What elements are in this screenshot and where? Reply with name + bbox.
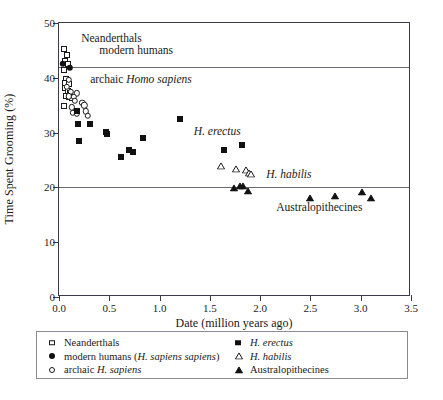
x-tick-mark [310,295,311,301]
y-tick-label: 30 [44,127,55,139]
legend-label-tail: ) [216,351,220,362]
series-australopithecines [59,23,409,295]
annotation-modern-humans: modern humans [99,44,173,56]
legend-item-neanderthals[interactable]: Neanderthals [47,336,219,350]
x-tick-label: 1.0 [153,302,167,314]
legend-marker-filled-triangle [235,366,243,373]
legend-label-italic: H. sapiens sapiens [138,351,216,362]
annotation-text-italic: Homo sapiens [126,73,192,85]
x-tick-mark [160,295,161,301]
legend-marker-open-square [49,340,55,346]
plot-area: 01020304050 0.00.51.01.52.02.53.03.5 Nea… [58,22,410,296]
annotation-australopithecines: Australopithecines [276,201,362,213]
x-tick-label: 3.5 [404,302,418,314]
x-tick-label: 1.5 [203,302,217,314]
x-tick-mark [260,295,261,301]
x-tick-label: 0.5 [102,302,116,314]
chart-legend: Neanderthalsmodern humans (H. sapiens sa… [36,331,408,379]
legend-item-archaic[interactable]: archaic H. sapiens [47,363,219,377]
x-tick-mark [109,295,110,301]
figure-caption [6,386,437,398]
legend-label: Neanderthals [64,337,119,348]
legend-column-right: H. erectusH. habilisAustralopithecines [233,336,329,377]
legend-item-modern-humans[interactable]: modern humans (H. sapiens sapiens) [47,350,219,364]
legend-marker-open-triangle [235,353,243,360]
annotation-neanderthals: Neanderthals [81,32,142,44]
annotation-h-erectus: H. erectus [194,125,241,137]
y-tick-label: 50 [44,17,55,29]
annotation-text-italic: H. habilis [266,168,311,180]
figure-container: Time Spent Grooming (%) 01020304050 0.00… [0,0,443,400]
legend-column-left: Neanderthalsmodern humans (H. sapiens sa… [47,336,219,377]
x-tick-mark [361,295,362,301]
data-point [367,195,375,202]
legend-marker-open-circle [49,367,55,373]
x-tick-mark [210,295,211,301]
legend-marker-filled-circle [49,353,55,359]
legend-label-italic: H. habilis [250,351,291,362]
y-tick-label: 20 [44,181,55,193]
legend-item-australopithecines[interactable]: Australopithecines [233,363,329,377]
legend-label: modern humans ( [64,351,138,362]
data-point [331,193,339,200]
annotation-h-habilis: H. habilis [266,168,311,180]
data-point [244,187,252,194]
x-tick-label: 2.0 [253,302,267,314]
y-tick-label: 40 [44,72,55,84]
legend-item-h-habilis[interactable]: H. habilis [233,350,329,364]
y-axis-title: Time Spent Grooming (%) [2,22,18,296]
legend-item-h-erectus[interactable]: H. erectus [233,336,329,350]
legend-label: Australopithecines [250,364,329,375]
data-point [358,188,366,195]
x-tick-mark [411,295,412,301]
legend-label: archaic [64,364,97,375]
annotation-text: archaic [90,73,126,85]
x-tick-mark [59,295,60,301]
legend-label-italic: H. sapiens [97,364,141,375]
x-tick-label: 3.0 [354,302,368,314]
x-tick-label: 0.0 [52,302,66,314]
x-tick-label: 2.5 [304,302,318,314]
x-axis-title: Date (million years ago) [58,316,410,331]
annotation-text-italic: H. erectus [194,125,241,137]
legend-label-italic: H. erectus [250,337,293,348]
legend-marker-filled-square [235,340,241,346]
y-tick-label: 10 [44,236,55,248]
annotation-homo-sapiens: archaic Homo sapiens [90,73,192,85]
